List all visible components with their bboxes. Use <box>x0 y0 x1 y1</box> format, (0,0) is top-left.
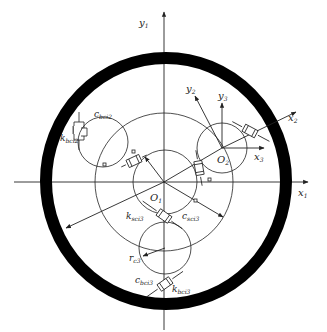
radius-arrow-ring <box>66 182 164 228</box>
label-x3: x3 <box>254 151 264 163</box>
label-k-sci3: ksci3 <box>126 211 144 222</box>
y2-axis <box>195 96 222 148</box>
spring-damper-bci2 <box>73 112 88 150</box>
spring-damper-sci2 <box>120 151 149 170</box>
label-O2: O2 <box>217 154 229 166</box>
label-x1: x1 <box>298 187 307 199</box>
planet-upper-left <box>78 117 128 167</box>
label-x2: x2 <box>288 112 298 124</box>
label-c-bci3: cbci3 <box>135 275 153 286</box>
label-y1: y1 <box>138 17 148 29</box>
radius-arrow-carrier <box>164 182 223 217</box>
label-c-bci2: cbci2 <box>94 109 112 120</box>
radius-arrow-sun <box>145 157 164 182</box>
line-o1-o2 <box>164 148 222 182</box>
radius-arrow-rc3 <box>143 248 165 256</box>
label-k-bci3: kbci3 <box>172 284 191 295</box>
label-y3: y3 <box>217 90 228 102</box>
label-c-sci3: csci3 <box>182 211 199 222</box>
spring-damper-sci3 <box>140 198 184 232</box>
label-r-c3: rc3 <box>129 253 141 264</box>
label-O1: O1 <box>150 192 162 204</box>
planetary-gear-diagram: y1 x1 y2 y3 x2 x3 O2 O1 cbci2 kbci2 ksci… <box>0 0 327 332</box>
label-y2: y2 <box>185 83 196 95</box>
label-k-bci2: kbci2 <box>60 133 79 144</box>
